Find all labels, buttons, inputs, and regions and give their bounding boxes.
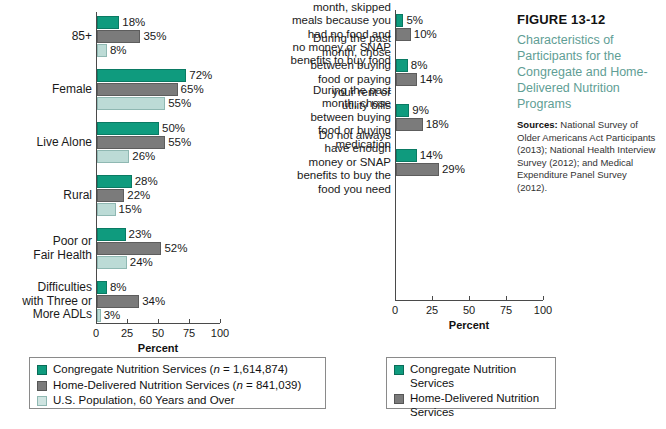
right-bar-chart: 0255075100PercentDuring the past month, … (265, 0, 555, 355)
legend-label: Home-Delivered Nutrition Services (410, 392, 548, 419)
bar-value-label: 35% (143, 30, 166, 43)
bar-left-chart-g2-s2 (97, 150, 129, 163)
x-axis-tick-label: 25 (417, 304, 447, 316)
bar-right-chart-g1-s1 (396, 73, 417, 86)
legend-item[interactable]: Congregate Nutrition Services (n = 1,614… (37, 363, 318, 377)
bar-left-chart-g2-s1 (97, 136, 165, 149)
category-label: Rural (18, 189, 92, 203)
bar-value-label: 9% (412, 104, 429, 117)
bar-left-chart-g3-s0 (97, 175, 132, 188)
bar-value-label: 15% (119, 203, 142, 216)
bar-value-label: 55% (168, 97, 191, 110)
bar-left-chart-g0-s1 (97, 30, 140, 43)
y-axis-line (96, 12, 97, 323)
x-axis-tick (158, 319, 159, 323)
x-axis-title: Percent (375, 319, 563, 331)
bar-value-label: 8% (411, 59, 428, 72)
bar-value-label: 18% (426, 118, 449, 131)
figure-number: FIGURE 13-12 (517, 12, 657, 27)
bar-left-chart-g4-s1 (97, 242, 161, 255)
figure-caption: FIGURE 13-12 Characteristics of Particip… (517, 12, 657, 194)
sources-label: Sources: (517, 119, 558, 130)
category-label: Difficulties with Three or More ADLs (18, 281, 92, 322)
x-axis-tick-label: 50 (143, 327, 173, 339)
x-axis-tick (506, 296, 507, 300)
legend-label: Congregate Nutrition Services (410, 363, 548, 390)
bar-value-label: 34% (142, 295, 165, 308)
x-axis-tick-label: 50 (454, 304, 484, 316)
bar-right-chart-g1-s0 (396, 59, 408, 72)
legend-swatch-icon (37, 396, 47, 406)
bar-value-label: 3% (104, 309, 121, 322)
bar-right-chart-g2-s0 (396, 104, 409, 117)
sources-text: National Survey of Older Americans Act P… (517, 119, 655, 193)
bar-left-chart-g1-s2 (97, 97, 165, 110)
bar-left-chart-g5-s2 (97, 309, 101, 322)
bar-left-chart-g3-s2 (97, 203, 116, 216)
bar-right-chart-g2-s1 (396, 118, 423, 131)
bar-value-label: 26% (132, 150, 155, 163)
legend-item[interactable]: Congregate Nutrition Services (394, 363, 548, 390)
bar-value-label: 14% (420, 149, 443, 162)
x-axis-tick (395, 296, 396, 300)
bar-value-label: 23% (129, 228, 152, 241)
bar-left-chart-g4-s2 (97, 256, 127, 269)
x-axis-title: Percent (76, 342, 240, 354)
bar-value-label: 5% (406, 14, 423, 27)
category-label: Female (18, 83, 92, 97)
bar-value-label: 29% (442, 163, 465, 176)
x-axis-tick-label: 75 (174, 327, 204, 339)
bar-value-label: 72% (189, 69, 212, 82)
legend-swatch-icon (37, 365, 47, 375)
bar-left-chart-g5-s1 (97, 295, 139, 308)
legend-label: Home-Delivered Nutrition Services (n = 8… (53, 379, 301, 393)
bar-right-chart-g0-s0 (396, 14, 403, 27)
x-axis-tick (543, 296, 544, 300)
left-bar-chart: 0255075100Percent85+18%35%8%Female72%65%… (0, 0, 250, 355)
x-axis-tick (189, 319, 190, 323)
bar-value-label: 65% (181, 83, 204, 96)
bar-left-chart-g0-s2 (97, 44, 107, 57)
bar-left-chart-g4-s0 (97, 228, 126, 241)
x-axis-tick (127, 319, 128, 323)
right-chart-legend: Congregate Nutrition ServicesHome-Delive… (386, 357, 556, 409)
bar-value-label: 28% (135, 175, 158, 188)
legend-item[interactable]: Home-Delivered Nutrition Services (n = 8… (37, 379, 318, 393)
category-label: Do not always have enough money or SNAP … (269, 129, 391, 196)
x-axis-tick (469, 296, 470, 300)
legend-item[interactable]: U.S. Population, 60 Years and Over (37, 394, 318, 408)
x-axis-tick-label: 0 (380, 304, 410, 316)
bar-value-label: 10% (414, 28, 437, 41)
legend-swatch-icon (394, 394, 404, 404)
bar-left-chart-g1-s1 (97, 83, 178, 96)
figure-title: Characteristics of Participants for the … (517, 32, 657, 112)
bar-left-chart-g3-s1 (97, 189, 124, 202)
bar-value-label: 52% (164, 242, 187, 255)
legend-swatch-icon (394, 365, 404, 375)
bar-left-chart-g0-s0 (97, 16, 119, 29)
left-chart-legend: Congregate Nutrition Services (n = 1,614… (29, 357, 326, 409)
x-axis-tick-label: 100 (205, 327, 235, 339)
bar-value-label: 18% (122, 16, 145, 29)
bar-left-chart-g2-s0 (97, 122, 159, 135)
category-label: 85+ (18, 30, 92, 44)
figure-13-12: 0255075100Percent85+18%35%8%Female72%65%… (0, 0, 666, 429)
bar-value-label: 24% (130, 256, 153, 269)
x-axis-tick-label: 100 (528, 304, 558, 316)
legend-label: Congregate Nutrition Services (n = 1,614… (53, 363, 288, 377)
x-axis-tick-label: 75 (491, 304, 521, 316)
bar-value-label: 8% (110, 281, 127, 294)
legend-item[interactable]: Home-Delivered Nutrition Services (394, 392, 548, 419)
legend-swatch-icon (37, 381, 47, 391)
bar-value-label: 22% (127, 189, 150, 202)
category-label: Poor or Fair Health (18, 235, 92, 262)
x-axis-line (96, 323, 220, 324)
x-axis-tick (432, 296, 433, 300)
bar-left-chart-g1-s0 (97, 69, 186, 82)
bar-value-label: 14% (420, 73, 443, 86)
legend-label: U.S. Population, 60 Years and Over (53, 394, 235, 408)
x-axis-line (395, 300, 543, 301)
bar-left-chart-g5-s0 (97, 281, 107, 294)
category-label: Live Alone (18, 136, 92, 150)
bar-value-label: 8% (110, 44, 127, 57)
